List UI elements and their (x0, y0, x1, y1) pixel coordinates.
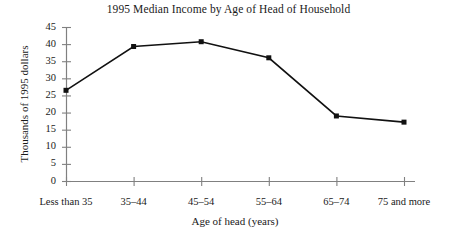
data-line (66, 42, 404, 122)
data-point-marker (131, 44, 136, 49)
y-tick-label: 25 (28, 90, 56, 101)
y-tick-label: 20 (28, 107, 56, 118)
y-tick-label: 0 (28, 176, 56, 187)
y-tick-label: 35 (28, 56, 56, 67)
y-tick-label: 40 (28, 39, 56, 50)
x-tick-label: Less than 35 (39, 196, 92, 207)
x-tick-label: 35–44 (120, 196, 146, 207)
y-tick-label: 15 (28, 124, 56, 135)
x-tick-label: 65–74 (323, 196, 349, 207)
data-point-marker (199, 39, 204, 44)
data-point-marker (64, 88, 69, 93)
y-tick-label: 30 (28, 73, 56, 84)
x-tick-label: 55–64 (256, 196, 282, 207)
x-tick-label: 45–54 (188, 196, 214, 207)
x-tick-label: 75 and more (378, 196, 431, 207)
y-tick-label: 5 (28, 158, 56, 169)
data-point-marker (266, 55, 271, 60)
y-tick-label: 45 (28, 22, 56, 33)
data-markers (64, 39, 407, 124)
axis-lines (66, 27, 415, 182)
y-tick-label: 10 (28, 141, 56, 152)
data-point-marker (402, 120, 407, 125)
data-point-marker (334, 113, 339, 118)
chart-container: 1995 Median Income by Age of Head of Hou… (0, 0, 457, 241)
